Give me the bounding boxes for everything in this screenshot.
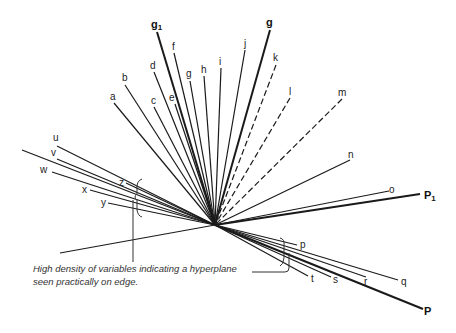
vector-label-p-31: P <box>424 305 431 317</box>
vector-line-i-9 <box>215 68 221 225</box>
vector-line-v-20 <box>57 159 215 225</box>
vector-label-n-15: n <box>348 149 354 160</box>
vector-label-v-20: v <box>51 147 56 158</box>
vector-label-p1-17: P1 <box>424 189 436 203</box>
vector-label-o-16: o <box>389 184 395 195</box>
vector-label-g-7: g <box>186 68 192 79</box>
vector-label-y-24: y <box>101 197 106 208</box>
left-cluster-brace <box>135 179 142 217</box>
vector-line-r-29 <box>215 225 366 277</box>
vector-label-g1-0: g1 <box>151 18 163 32</box>
vector-label-j-10: j <box>243 38 246 49</box>
vector-label-a-4: a <box>110 91 116 102</box>
vector-line-o-16 <box>215 191 389 225</box>
vector-line-q-30 <box>215 225 398 280</box>
annotation-line-1: High density of variables indicating a h… <box>33 263 237 274</box>
vector-line-g-11 <box>215 30 270 225</box>
vector-label-e-6: e <box>169 92 175 103</box>
vector-label-z-22: z <box>119 177 124 188</box>
vector-label-r-29: r <box>364 276 368 287</box>
vector-label-g-11: g <box>266 16 273 28</box>
vector-line-u-18 <box>57 146 215 225</box>
vector-line-e-6 <box>175 104 215 225</box>
vector-label-i-9: i <box>219 56 221 67</box>
factor-vector-diagram: g1fdbaceghijgklmnoP1uvwzxyptsrqP High de… <box>0 0 456 333</box>
vector-label-s-28: s <box>333 274 338 285</box>
vector-label-p-26: p <box>300 239 306 250</box>
vector-label-k-12: k <box>273 52 279 63</box>
vector-label-c-5: c <box>151 95 156 106</box>
vector-line-p-31 <box>215 225 423 309</box>
annotation-line-2: seen practically on edge. <box>33 276 138 287</box>
vector-line-p1-17 <box>215 194 420 225</box>
vector-label-w-21: w <box>39 164 48 175</box>
vector-label-q-30: q <box>401 276 407 287</box>
vector-label-b-3: b <box>122 72 128 83</box>
vector-label-f-1: f <box>172 41 175 52</box>
vector-label-t-27: t <box>311 273 314 284</box>
vector-label-h-8: h <box>201 64 207 75</box>
vector-label-x-23: x <box>82 184 87 195</box>
vector-label-l-13: l <box>289 86 291 97</box>
vector-label-m-14: m <box>338 87 346 98</box>
vector-label-d-2: d <box>150 60 156 71</box>
vector-line-k-12 <box>215 65 276 225</box>
vector-line-unlabeled-25 <box>60 225 215 253</box>
vector-label-u-18: u <box>53 132 59 143</box>
